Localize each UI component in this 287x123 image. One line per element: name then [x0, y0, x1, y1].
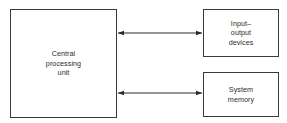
input-output-devices-block: Input– output devices — [203, 9, 279, 57]
system-memory-block-label: System memory — [228, 85, 254, 104]
block-diagram-figure: Central processing unit Input– output de… — [0, 0, 287, 123]
input-output-devices-block-label: Input– output devices — [229, 19, 254, 47]
cpu-block-label: Central processing unit — [46, 49, 81, 77]
cpu-block: Central processing unit — [10, 9, 117, 118]
system-memory-block: System memory — [203, 72, 279, 117]
